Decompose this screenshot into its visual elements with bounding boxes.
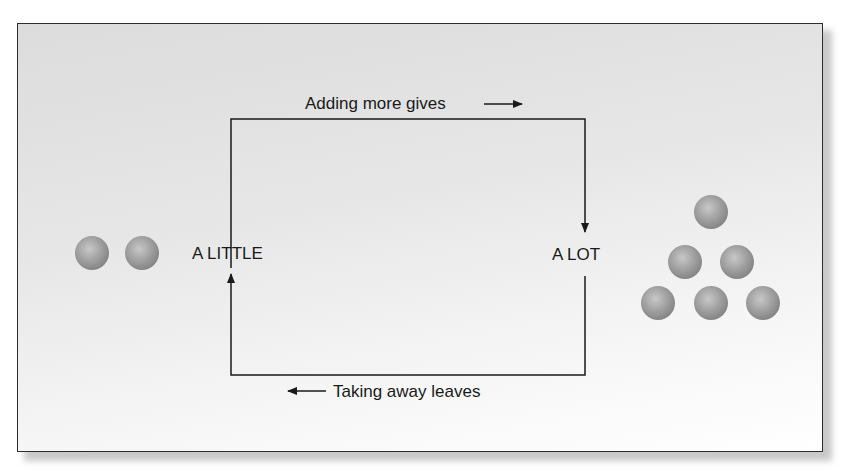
add-path-arrow [231,119,585,268]
ball-icon [746,286,780,320]
top-label: Adding more gives [305,95,446,112]
right-state-label: A LOT [552,246,600,263]
ball-icon [668,245,702,279]
bottom-label: Taking away leaves [333,383,480,400]
ball-icon [125,236,159,270]
ball-icon [694,286,728,320]
ball-icon [694,195,728,229]
left-ball-group [75,236,159,270]
ball-icon [720,245,754,279]
right-ball-group [641,195,780,320]
take-away-path-arrow [231,274,585,375]
ball-icon [75,236,109,270]
ball-icon [641,286,675,320]
left-state-label: A LITTLE [192,245,263,262]
